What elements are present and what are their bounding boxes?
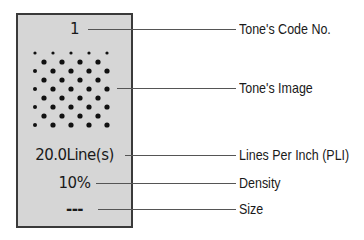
label-density: Density xyxy=(239,175,281,191)
leader-line-size xyxy=(98,209,236,210)
label-code-no: Tone's Code No. xyxy=(239,21,331,37)
leader-line-code-no xyxy=(88,29,236,30)
label-size: Size xyxy=(239,201,263,217)
tone-image-dot-pattern xyxy=(33,50,113,132)
leader-line-image xyxy=(117,88,236,89)
leader-line-lpi xyxy=(125,155,236,156)
leader-line-density xyxy=(96,183,236,184)
label-lpi: Lines Per Inch (PLI) xyxy=(239,147,349,163)
label-image: Tone's Image xyxy=(239,80,313,96)
tone-lines-value: 20.0Line(s) xyxy=(16,147,133,163)
